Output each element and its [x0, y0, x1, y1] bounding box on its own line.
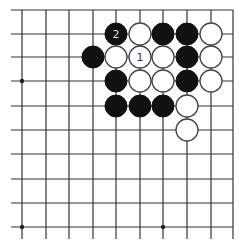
black-stone-disc	[176, 23, 198, 45]
black-stone-disc	[176, 46, 198, 68]
black-stone-disc	[176, 70, 198, 92]
black-stone: 2	[105, 23, 127, 45]
black-stone	[152, 23, 174, 45]
black-stone-disc	[82, 46, 104, 68]
black-stone	[176, 23, 198, 45]
black-stone	[82, 46, 104, 68]
white-stone-disc	[129, 70, 151, 92]
black-stone	[105, 95, 127, 117]
go-board: 21	[0, 0, 241, 248]
black-stone	[105, 70, 127, 92]
white-stone	[129, 70, 151, 92]
black-stone-disc	[152, 95, 174, 117]
black-stone-disc	[129, 95, 151, 117]
black-stone	[176, 46, 198, 68]
white-stone	[176, 119, 198, 141]
black-stone-disc	[152, 23, 174, 45]
white-stone	[152, 70, 174, 92]
star-point	[20, 225, 24, 229]
star-point	[161, 225, 165, 229]
white-stone	[200, 46, 222, 68]
white-stone	[152, 46, 174, 68]
white-stone: 1	[129, 46, 151, 68]
white-stone-disc	[176, 119, 198, 141]
white-stone	[176, 95, 198, 117]
white-stone-disc	[176, 95, 198, 117]
white-stone	[129, 23, 151, 45]
black-stone	[152, 95, 174, 117]
white-stone	[105, 46, 127, 68]
white-stone-disc	[105, 46, 127, 68]
white-stone-disc	[152, 46, 174, 68]
move-number-label: 1	[137, 51, 144, 64]
black-stone-disc	[105, 95, 127, 117]
white-stone-disc	[129, 23, 151, 45]
black-stone-disc	[105, 70, 127, 92]
white-stone-disc	[152, 70, 174, 92]
white-stone	[200, 23, 222, 45]
board-grid	[11, 10, 233, 239]
stones-layer: 21	[82, 23, 222, 141]
move-number-label: 2	[113, 28, 120, 41]
white-stone-disc	[200, 46, 222, 68]
white-stone-disc	[200, 23, 222, 45]
star-point	[20, 79, 24, 83]
black-stone	[129, 95, 151, 117]
white-stone-disc	[200, 70, 222, 92]
black-stone	[176, 70, 198, 92]
white-stone	[200, 70, 222, 92]
